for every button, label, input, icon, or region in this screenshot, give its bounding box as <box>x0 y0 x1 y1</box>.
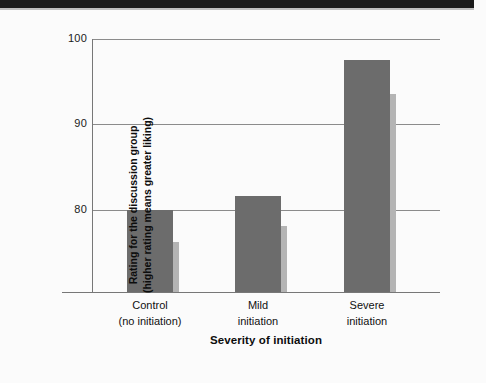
y-axis-title: Rating for the discussion group (higher … <box>126 95 154 315</box>
scan-top-band <box>0 0 474 8</box>
bar-mild[interactable] <box>235 196 281 292</box>
gridline-100 <box>92 39 440 40</box>
bar-shadow-control <box>173 242 179 292</box>
y-axis-line <box>92 39 93 292</box>
plot-area: 100 90 80 Control (no initiation) Mild i… <box>92 39 440 292</box>
y-axis-title-line1: Rating for the discussion group <box>126 95 140 315</box>
x-tick-label-severe-line2: initiation <box>297 313 437 329</box>
y-tick-label-90: 90 <box>74 117 87 129</box>
figure-canvas: 100 90 80 Control (no initiation) Mild i… <box>0 0 486 383</box>
bar-shadow-mild <box>281 226 287 292</box>
y-tick-label-80: 80 <box>74 203 87 215</box>
x-tick-label-severe-line1: Severe <box>297 297 437 313</box>
x-axis-line <box>62 292 440 293</box>
bar-shadow-severe <box>390 94 396 292</box>
y-axis-title-line2: (higher rating means greater liking) <box>140 95 154 315</box>
y-tick-label-100: 100 <box>68 32 87 44</box>
scan-top-band-shadow <box>0 8 474 10</box>
x-axis-title: Severity of initiation <box>92 334 440 346</box>
bar-severe[interactable] <box>344 60 390 292</box>
x-tick-label-severe: Severe initiation <box>297 297 437 329</box>
